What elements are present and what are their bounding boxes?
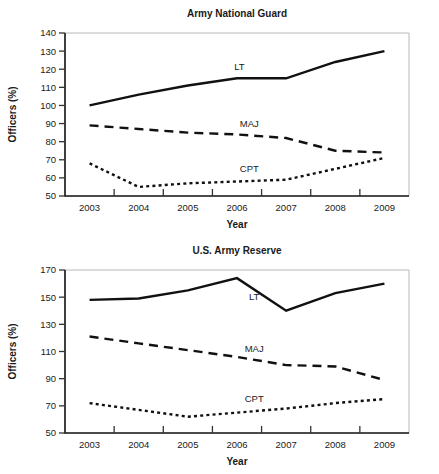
x-tick-label: 2007 — [276, 202, 297, 213]
series-label-maj: MAJ — [240, 118, 259, 129]
y-tick-label: 60 — [45, 172, 56, 183]
y-tick-label: 70 — [45, 154, 56, 165]
series-label-cpt: CPT — [245, 393, 264, 404]
y-axis-title: Officers (%) — [7, 323, 18, 379]
series-line-cpt — [90, 399, 385, 417]
chart-army-national-guard: Army National Guard506070809010011012013… — [0, 0, 439, 237]
series-label-maj: MAJ — [245, 343, 264, 354]
x-tick-label: 2006 — [226, 439, 247, 450]
y-tick-label: 50 — [45, 427, 56, 438]
x-tick-label: 2008 — [325, 202, 346, 213]
series-label-lt: LT — [234, 61, 245, 72]
x-tick-label: 2009 — [374, 439, 395, 450]
x-tick-label: 2003 — [79, 202, 100, 213]
series-label-cpt: CPT — [240, 163, 259, 174]
series-line-cpt — [90, 158, 385, 187]
y-tick-label: 90 — [45, 118, 56, 129]
chart-svg-bottom: U.S. Army Reserve50709011013015017020032… — [0, 237, 439, 474]
x-tick-label: 2009 — [374, 202, 395, 213]
x-tick-label: 2005 — [177, 202, 198, 213]
chart-svg-top: Army National Guard506070809010011012013… — [0, 0, 439, 237]
x-tick-label: 2008 — [325, 439, 346, 450]
y-axis-title: Officers (%) — [7, 86, 18, 142]
y-tick-label: 100 — [40, 100, 56, 111]
x-tick-label: 2004 — [128, 439, 149, 450]
series-line-lt — [90, 278, 385, 311]
x-tick-label: 2005 — [177, 439, 198, 450]
y-tick-label: 130 — [40, 319, 56, 330]
chart-title: U.S. Army Reserve — [192, 245, 282, 256]
y-tick-label: 110 — [41, 82, 56, 93]
plot-axes — [65, 270, 409, 433]
y-tick-label: 70 — [45, 400, 56, 411]
y-tick-label: 50 — [45, 190, 56, 201]
y-tick-label: 90 — [45, 373, 56, 384]
y-tick-label: 120 — [40, 64, 56, 75]
x-axis-title: Year — [226, 219, 247, 230]
chart-title: Army National Guard — [187, 8, 287, 19]
x-tick-label: 2006 — [226, 202, 247, 213]
chart-top-root: Army National Guard506070809010011012013… — [7, 8, 409, 230]
x-tick-label: 2007 — [276, 439, 297, 450]
series-line-lt — [90, 51, 385, 105]
series-label-lt: LT — [249, 291, 260, 302]
y-tick-label: 80 — [45, 136, 56, 147]
y-tick-label: 130 — [40, 46, 56, 57]
series-line-maj — [90, 337, 385, 380]
x-tick-label: 2004 — [128, 202, 149, 213]
chart-us-army-reserve: U.S. Army Reserve50709011013015017020032… — [0, 237, 439, 474]
y-tick-label: 140 — [40, 27, 56, 38]
y-tick-label: 150 — [40, 292, 56, 303]
y-tick-label: 170 — [40, 264, 56, 275]
x-tick-label: 2003 — [79, 439, 100, 450]
plot-frame — [65, 270, 409, 433]
chart-bottom-root: U.S. Army Reserve50709011013015017020032… — [7, 245, 409, 467]
series-line-maj — [90, 125, 385, 152]
x-axis-title: Year — [226, 456, 247, 467]
y-tick-label: 110 — [41, 346, 56, 357]
